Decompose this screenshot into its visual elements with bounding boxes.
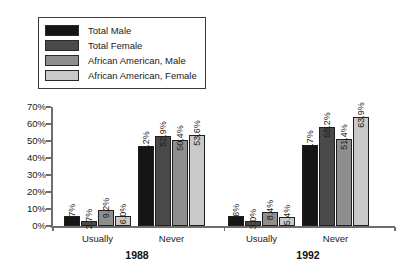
x-axis-tick [52, 227, 54, 231]
y-axis-tick [46, 106, 51, 108]
y-axis-tick-label: 40% [4, 153, 46, 163]
y-axis-tick [46, 208, 51, 210]
bar: 52.9% [155, 136, 171, 226]
bar: 3.0% [245, 221, 261, 226]
bar: 47.7% [302, 145, 318, 226]
bar: 9.2% [98, 210, 114, 226]
x-axis-period-label: 1992 [268, 249, 348, 261]
x-axis-period-label: 1988 [97, 249, 177, 261]
bar-value-label: 58.2% [318, 112, 327, 138]
legend-swatch-icon [45, 40, 79, 51]
legend-swatch-icon [45, 70, 79, 81]
y-axis-tick [46, 225, 51, 227]
y-axis-tick [46, 123, 51, 125]
bar-value-label: 5.4% [278, 205, 287, 226]
bar-value-label: 9.2% [97, 198, 106, 219]
bar-value-label: 5.7% [63, 204, 72, 225]
legend-swatch-icon [45, 55, 79, 66]
bar-value-label: 47.7% [301, 130, 310, 156]
bar-value-label: 51.4% [335, 124, 344, 150]
bar-value-label: 63.9% [352, 103, 361, 129]
bar: 5.7% [64, 216, 80, 226]
legend-item: Total Female [45, 38, 197, 53]
x-axis-tick [224, 227, 226, 231]
legend-item: African American, Female [45, 68, 197, 83]
bar-group: 5.6%3.0%8.4%5.4% [228, 107, 295, 226]
x-axis-tick [394, 227, 396, 231]
bar: 5.6% [228, 216, 244, 226]
bar-group: 47.2%52.9%50.4%53.6% [138, 107, 205, 226]
y-axis-tick [46, 191, 51, 193]
bar-value-label: 53.6% [188, 120, 197, 146]
bar: 53.6% [189, 135, 205, 226]
bar-value-label: 47.2% [137, 131, 146, 157]
legend-item-label: Total Male [88, 25, 131, 36]
y-axis-tick-label: 60% [4, 119, 46, 129]
bar: 2.7% [81, 221, 97, 226]
bar-value-label: 3.0% [244, 209, 253, 230]
bar: 51.4% [336, 139, 352, 226]
x-axis-category-label: Never [296, 234, 376, 244]
y-axis-tick [46, 157, 51, 159]
bar: 63.9% [353, 117, 369, 226]
legend-item-label: African American, Male [88, 55, 186, 66]
y-axis-tick-label: 30% [4, 170, 46, 180]
bar: 58.2% [319, 127, 335, 226]
legend-item-label: Total Female [88, 40, 142, 51]
legend-swatch-icon [45, 25, 79, 36]
y-axis-tick-label: 10% [4, 204, 46, 214]
bar-value-label: 5.6% [227, 204, 236, 225]
bar-value-label: 6.0% [114, 204, 123, 225]
bar-value-label: 52.9% [154, 121, 163, 147]
bar-value-label: 50.4% [171, 126, 180, 152]
bar: 50.4% [172, 140, 188, 226]
legend-item: African American, Male [45, 53, 197, 68]
bar-group: 5.7%2.7%9.2%6.0% [64, 107, 131, 226]
bar: 8.4% [262, 212, 278, 226]
y-axis-tick-label: 70% [4, 102, 46, 112]
bar-chart: Total MaleTotal FemaleAfrican American, … [0, 0, 407, 276]
y-axis-tick [46, 174, 51, 176]
bar-group: 47.7%58.2%51.4%63.9% [302, 107, 369, 226]
bar-value-label: 8.4% [261, 199, 270, 220]
bar: 47.2% [138, 146, 154, 226]
chart-legend: Total MaleTotal FemaleAfrican American, … [38, 17, 206, 89]
bar: 6.0% [115, 216, 131, 226]
bar-value-label: 2.7% [80, 209, 89, 230]
y-axis-tick-label: 0% [4, 221, 46, 231]
legend-item-label: African American, Female [88, 70, 197, 81]
y-axis-tick [46, 140, 51, 142]
x-axis-category-label: Usually [58, 234, 138, 244]
y-axis-tick-label: 20% [4, 187, 46, 197]
y-axis-tick-label: 50% [4, 136, 46, 146]
plot-area: 5.7%2.7%9.2%6.0%47.2%52.9%50.4%53.6%5.6%… [52, 107, 395, 226]
bar: 5.4% [279, 217, 295, 226]
x-axis-category-label: Never [132, 234, 212, 244]
x-axis-category-label: Usually [222, 234, 302, 244]
legend-item: Total Male [45, 23, 197, 38]
